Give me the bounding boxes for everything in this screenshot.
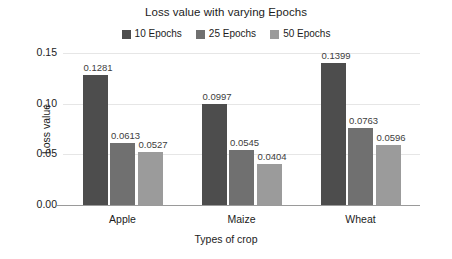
legend-item-2[interactable]: 50 Epochs <box>270 29 330 39</box>
y-tick-label: 0.15 <box>5 46 57 58</box>
legend-item-0[interactable]: 10 Epochs <box>122 29 182 39</box>
bar-value-label: 0.1399 <box>322 50 351 61</box>
legend-label: 10 Epochs <box>135 29 182 39</box>
bar-value-label: 0.0613 <box>111 130 140 141</box>
chart-title: Loss value with varying Epochs <box>0 6 452 18</box>
bar-value-label: 0.0545 <box>230 137 259 148</box>
bar-value-label: 0.1281 <box>84 62 113 73</box>
x-tick-label-maize: Maize <box>227 213 255 225</box>
bar-value-label: 0.0997 <box>203 91 232 102</box>
bar-maize-1[interactable] <box>229 150 254 205</box>
legend-item-1[interactable]: 25 Epochs <box>196 29 256 39</box>
bar-apple-2[interactable] <box>138 152 163 205</box>
y-axis-title: Loss value <box>40 104 52 154</box>
y-tick-label: 0.00 <box>5 198 57 210</box>
chart-legend: 10 Epochs25 Epochs50 Epochs <box>0 29 452 39</box>
bar-maize-2[interactable] <box>257 164 282 205</box>
x-axis-line <box>57 205 420 206</box>
bar-wheat-2[interactable] <box>376 145 401 205</box>
bar-value-label: 0.0404 <box>258 151 287 162</box>
bar-wheat-0[interactable] <box>321 63 346 205</box>
bar-wheat-1[interactable] <box>348 128 373 205</box>
x-axis-title: Types of crop <box>0 233 452 245</box>
legend-label: 25 Epochs <box>209 29 256 39</box>
bar-apple-0[interactable] <box>83 75 108 205</box>
bar-chart: Loss value with varying Epochs 10 Epochs… <box>0 0 452 259</box>
bar-maize-0[interactable] <box>202 104 227 205</box>
bar-value-label: 0.0763 <box>349 115 378 126</box>
legend-swatch-icon <box>270 30 279 39</box>
gridline <box>63 53 420 54</box>
bar-value-label: 0.0527 <box>139 139 168 150</box>
bar-apple-1[interactable] <box>110 143 135 205</box>
gridline <box>63 104 420 105</box>
plot-area: 0.12810.06130.05270.09970.05450.04040.13… <box>63 53 420 205</box>
legend-swatch-icon <box>196 30 205 39</box>
x-tick-label-apple: Apple <box>109 213 136 225</box>
bar-value-label: 0.0596 <box>377 132 406 143</box>
legend-label: 50 Epochs <box>283 29 330 39</box>
legend-swatch-icon <box>122 30 131 39</box>
x-tick-label-wheat: Wheat <box>345 213 375 225</box>
